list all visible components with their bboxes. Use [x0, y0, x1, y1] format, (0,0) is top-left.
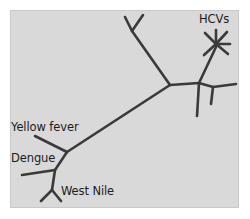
branch-hcvs-ray-1	[205, 33, 216, 44]
branch-upper-fork-left-tip	[125, 17, 132, 31]
tip-label-hcvs: HCVs	[199, 14, 229, 26]
branch-dengue-stem	[55, 152, 67, 170]
branch-right-pendant-down	[197, 83, 199, 116]
branch-upper-fork-right-tip	[132, 15, 143, 31]
phylogenetic-tree-figure: HCVs Yellow fever Dengue West Nile	[0, 0, 250, 219]
branch-right-subfork-stem	[199, 83, 213, 87]
branch-right-internal	[170, 83, 199, 85]
branch-hcvs-ray-3	[216, 32, 227, 44]
tree-branches	[0, 0, 250, 219]
branch-trunk	[67, 85, 170, 152]
branch-yellow-fever-branch	[35, 136, 67, 152]
branch-westnile-tip-right	[52, 190, 61, 201]
tip-label-west-nile: West Nile	[61, 186, 114, 198]
branch-upper-fork-stem	[132, 31, 170, 85]
branch-dengue-branch	[22, 170, 55, 175]
branch-westnile-tip-left	[41, 190, 52, 201]
tip-label-dengue: Dengue	[11, 153, 55, 165]
branch-westnile-stem	[52, 170, 55, 190]
tip-label-yellow-fever: Yellow fever	[11, 122, 79, 134]
branch-right-subfork-upper-tip	[213, 84, 236, 87]
branch-hcvs-ray-5	[216, 44, 228, 54]
branch-right-subfork-lower-tip	[211, 87, 213, 104]
